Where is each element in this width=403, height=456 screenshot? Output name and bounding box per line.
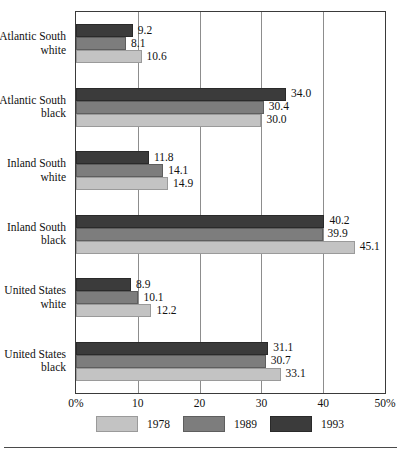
category-label-line: Atlantic South <box>0 94 66 108</box>
bar-1978 <box>76 177 168 190</box>
bar-1978 <box>76 368 281 381</box>
category-label: Inland Southwhite <box>7 157 66 184</box>
bar-value-label: 31.1 <box>268 341 293 354</box>
bar-value-label: 8.1 <box>126 37 145 50</box>
bar-value-label: 30.0 <box>261 113 286 126</box>
legend-label: 1978 <box>147 418 170 430</box>
category-label-line: white <box>0 44 66 58</box>
category-label-line: Inland South <box>7 221 66 235</box>
bar-value-label: 8.9 <box>131 278 150 291</box>
bar-group: 8.910.112.2 <box>76 266 385 330</box>
chart-figure: 9.28.110.634.030.430.011.814.114.940.239… <box>0 0 403 456</box>
category-label-line: United States <box>4 348 66 362</box>
category-label-line: black <box>0 107 66 121</box>
bar-value-label: 40.2 <box>324 214 349 227</box>
bar-group: 11.814.114.9 <box>76 139 385 203</box>
legend-swatch-icon <box>270 416 312 432</box>
category-label-line: United States <box>4 284 66 298</box>
bar-1989 <box>76 37 126 50</box>
chart-legend: 197819891993 <box>0 416 403 438</box>
bar-value-label: 12.2 <box>151 304 176 317</box>
bar-value-label: 10.6 <box>142 50 167 63</box>
legend-item-1993[interactable]: 1993 <box>270 416 344 432</box>
bar-1993 <box>76 215 324 228</box>
bar-value-label: 45.1 <box>355 240 380 253</box>
bar-1978 <box>76 114 261 127</box>
bar-group: 9.28.110.6 <box>76 12 385 76</box>
x-tick-label: 20 <box>194 397 206 409</box>
legend-item-1989[interactable]: 1989 <box>183 416 257 432</box>
category-label-line: black <box>7 234 66 248</box>
bar-group: 31.130.733.1 <box>76 330 385 394</box>
bar-value-label: 14.9 <box>168 177 193 190</box>
bar-value-label: 30.4 <box>264 100 289 113</box>
bar-1993 <box>76 342 268 355</box>
bar-1993 <box>76 151 149 164</box>
plot-area: 9.28.110.634.030.430.011.814.114.940.239… <box>75 11 386 394</box>
bar-1978 <box>76 50 142 63</box>
bar-value-label: 30.7 <box>266 354 291 367</box>
legend-swatch-icon <box>96 416 138 432</box>
bar-1989 <box>76 228 323 241</box>
bar-value-label: 34.0 <box>286 87 311 100</box>
bar-group: 34.030.430.0 <box>76 76 385 140</box>
bar-1989 <box>76 101 264 114</box>
x-tick-label: 0% <box>68 397 83 409</box>
x-axis-tick-labels: 0%1020304050% <box>0 395 403 411</box>
bar-1993 <box>76 24 133 37</box>
bar-1989 <box>76 291 138 304</box>
bar-value-label: 33.1 <box>281 367 306 380</box>
x-tick-label: 50% <box>374 397 395 409</box>
category-label: United Statesblack <box>4 348 66 375</box>
category-label-line: Inland South <box>7 157 66 171</box>
bar-value-label: 10.1 <box>138 291 163 304</box>
category-label-line: white <box>7 171 66 185</box>
category-label-line: Atlantic South <box>0 30 66 44</box>
bar-1989 <box>76 355 266 368</box>
footer-rule <box>4 447 397 448</box>
bar-1993 <box>76 278 131 291</box>
bar-value-label: 39.9 <box>323 227 348 240</box>
legend-swatch-icon <box>183 416 225 432</box>
category-label-line: black <box>4 361 66 375</box>
category-label-line: white <box>4 298 66 312</box>
category-label: Atlantic Southblack <box>0 94 66 121</box>
x-tick-label: 30 <box>256 397 268 409</box>
bar-1978 <box>76 241 355 254</box>
bar-1993 <box>76 88 286 101</box>
category-label: United Stateswhite <box>4 284 66 311</box>
bar-value-label: 14.1 <box>163 164 188 177</box>
bar-group: 40.239.945.1 <box>76 203 385 267</box>
x-tick-label: 40 <box>317 397 329 409</box>
bar-value-label: 9.2 <box>133 24 152 37</box>
legend-item-1978[interactable]: 1978 <box>96 416 170 432</box>
bar-1978 <box>76 304 151 317</box>
x-tick-label: 10 <box>132 397 144 409</box>
bar-1989 <box>76 164 163 177</box>
legend-label: 1989 <box>234 418 257 430</box>
bar-value-label: 11.8 <box>149 151 174 164</box>
category-label: Atlantic Southwhite <box>0 30 66 57</box>
category-label: Inland Southblack <box>7 221 66 248</box>
legend-label: 1993 <box>321 418 344 430</box>
